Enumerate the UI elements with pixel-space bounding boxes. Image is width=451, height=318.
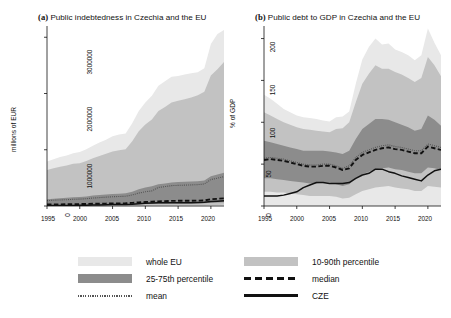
panel-a: (a) Public indebtedness in Czechia and t… (0, 0, 232, 245)
legend-label-25-75: 25-75th percentile (146, 274, 234, 284)
panel-b-xtick-1995: 1995 (253, 215, 277, 222)
panel-b-xtick-2000: 2000 (285, 215, 309, 222)
panel-b-ytick-200: 200 (269, 32, 276, 62)
panel-a-xtick-2010: 2010 (132, 215, 156, 222)
panel-b-xtick-2010: 2010 (349, 215, 373, 222)
legend-label-whole-eu: whole EU (146, 257, 234, 267)
legend-label-mean: mean (146, 291, 234, 301)
panel-a-xtick-2000: 2000 (68, 215, 92, 222)
panel-a-xtick-1995: 1995 (36, 215, 60, 222)
panel-b-ytick-150: 150 (269, 75, 276, 105)
panel-b: (b) Public debt to GDP in Czechia and th… (219, 0, 451, 245)
panel-b-xtick-2015: 2015 (381, 215, 405, 222)
panel-a-ytick-3: 3000000 (86, 38, 93, 86)
legend-swatch-whole-eu (78, 257, 132, 266)
panel-b-title-text: Public debt to GDP in Czechia and the EU (268, 13, 420, 22)
panel-a-ylabel: millions of EUR (10, 107, 17, 152)
panel-a-tag: (a) (38, 12, 48, 22)
legend-label-cze: CZE (312, 291, 432, 301)
panel-a-xtick-2020: 2020 (196, 215, 220, 222)
legend-swatch-25-75 (78, 274, 132, 283)
legend-swatch-10-90 (244, 257, 298, 266)
panel-a-plot (0, 0, 232, 245)
panel-b-ytick-50: 50 (265, 161, 272, 187)
legend-swatch-median (244, 274, 298, 283)
panel-b-title: (b) Public debt to GDP in Czechia and th… (255, 12, 420, 22)
panel-a-xtick-2015: 2015 (164, 215, 188, 222)
panel-a-title: (a) Public indebtedness in Czechia and t… (38, 12, 206, 22)
panel-b-ylabel: % of GDP (229, 99, 236, 128)
panel-b-plot (219, 0, 451, 245)
legend-swatch-cze (244, 291, 298, 300)
panel-b-ytick-100: 100 (269, 118, 276, 148)
panel-a-ytick-1: 1000000 (86, 152, 93, 200)
legend: whole EU 10-90th percentile 25-75th perc… (0, 245, 451, 318)
panel-b-xtick-2020: 2020 (413, 215, 437, 222)
legend-label-10-90: 10-90th percentile (312, 257, 432, 267)
panel-a-xtick-2005: 2005 (100, 215, 124, 222)
legend-swatch-mean (78, 291, 132, 300)
panel-b-tag: (b) (255, 12, 266, 22)
panel-b-xtick-2005: 2005 (317, 215, 341, 222)
panel-a-title-text: Public indebtedness in Czechia and the E… (50, 13, 206, 22)
legend-label-median: median (312, 274, 432, 284)
panel-a-ytick-2: 2000000 (86, 95, 93, 143)
